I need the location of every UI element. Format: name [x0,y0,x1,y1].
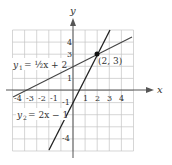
svg-text:-2: -2 [38,94,46,103]
svg-text:3: 3 [67,50,72,59]
svg-text:= 2x − 1: = 2x − 1 [28,110,68,120]
svg-text:-3: -3 [26,94,34,103]
y-arrow-icon [70,18,76,26]
y2-equation: y 2 = 2x − 1 [16,108,68,121]
svg-text:y: y [16,110,23,120]
graph: x y -4 -3 -2 -1 1 2 3 4 4 3 1 -1 -4 (2, … [0,0,172,165]
svg-text:1: 1 [19,64,23,71]
svg-text:4: 4 [67,38,72,47]
x-axis-label: x [157,84,163,95]
svg-text:1: 1 [67,74,72,83]
svg-text:2: 2 [95,94,100,103]
svg-text:= ½x + 2: = ½x + 2 [24,60,67,70]
intersection-label: (2, 3) [98,56,122,66]
svg-text:-1: -1 [50,94,58,103]
y1-equation: y 1 = ½x + 2 [12,58,67,71]
svg-text:4: 4 [119,94,124,103]
y-axis-label: y [69,5,76,16]
svg-text:-1: -1 [62,98,70,107]
x-arrow-icon [146,87,154,93]
svg-text:3: 3 [107,94,112,103]
svg-text:2: 2 [23,114,27,121]
svg-text:y: y [12,60,19,70]
svg-text:1: 1 [83,94,88,103]
svg-text:-4: -4 [62,134,70,143]
